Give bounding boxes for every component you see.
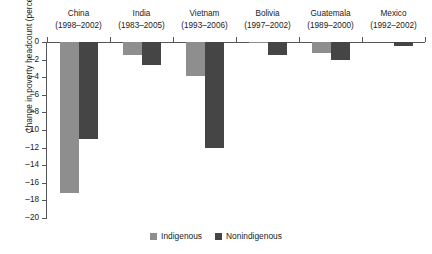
bar-bolivia-nonindigenous (268, 42, 287, 55)
y-axis-tick-label: –6 (3, 91, 39, 99)
bar-china-indigenous (60, 42, 79, 193)
y-axis-tick-mark (42, 130, 47, 131)
legend-label: Indigenous (161, 231, 202, 241)
group-separator-tick (47, 37, 48, 42)
y-axis-tick-label: –18 (3, 196, 39, 204)
chart-legend: IndigenousNonindigenous (0, 231, 432, 241)
plot-area: 0–2–4–6–8–10–12–14–16–18–20 (47, 42, 425, 218)
y-axis-tick-mark (42, 218, 47, 219)
bar-guatemala-indigenous (312, 42, 331, 53)
category-name: Bolivia (236, 8, 299, 20)
category-name: China (47, 8, 110, 20)
category-name: Mexico (362, 8, 425, 20)
category-period: (1997–2002) (236, 20, 299, 32)
bar-vietnam-indigenous (186, 42, 205, 76)
category-header-bolivia: Bolivia(1997–2002) (236, 8, 299, 31)
y-axis-tick-mark (42, 165, 47, 166)
y-axis-tick-label: –14 (3, 161, 39, 169)
category-header-guatemala: Guatemala(1989–2000) (299, 8, 362, 31)
y-axis-tick-label: –4 (3, 73, 39, 81)
legend-label: Nonindigenous (226, 231, 282, 241)
y-axis-tick-label: –16 (3, 179, 39, 187)
category-name: Guatemala (299, 8, 362, 20)
bar-india-indigenous (123, 42, 142, 55)
y-axis-tick-label: 0 (3, 38, 39, 46)
category-header-vietnam: Vietnam(1993–2006) (173, 8, 236, 31)
category-period: (1992–2002) (362, 20, 425, 32)
legend-item-nonindigenous[interactable]: Nonindigenous (215, 231, 282, 241)
y-axis-tick-mark (42, 95, 47, 96)
group-separator-tick (299, 37, 300, 42)
y-axis-tick-mark (42, 42, 47, 43)
category-header-china: China(1998–2002) (47, 8, 110, 31)
category-name: Vietnam (173, 8, 236, 20)
bar-guatemala-nonindigenous (331, 42, 350, 60)
category-period: (1993–2006) (173, 20, 236, 32)
category-header-india: India(1983–2005) (110, 8, 173, 31)
group-separator-tick (425, 37, 426, 42)
zero-baseline (47, 42, 425, 43)
y-axis-tick-label: –8 (3, 108, 39, 116)
y-axis-tick-mark (42, 112, 47, 113)
legend-item-indigenous[interactable]: Indigenous (150, 231, 202, 241)
bar-china-nonindigenous (79, 42, 98, 139)
category-name: India (110, 8, 173, 20)
y-axis-tick-mark (42, 183, 47, 184)
y-axis-tick-mark (42, 148, 47, 149)
category-header-mexico: Mexico(1992–2002) (362, 8, 425, 31)
group-separator-tick (236, 37, 237, 42)
group-separator-tick (110, 37, 111, 42)
bar-bolivia-indigenous (249, 42, 268, 43)
y-axis-tick-mark (42, 200, 47, 201)
category-period: (1983–2005) (110, 20, 173, 32)
category-period: (1989–2000) (299, 20, 362, 32)
group-separator-tick (173, 37, 174, 42)
y-axis-tick-mark (42, 77, 47, 78)
legend-swatch-nonindigenous (215, 233, 222, 240)
y-axis-tick-label: –20 (3, 214, 39, 222)
bar-india-nonindigenous (142, 42, 161, 65)
y-axis-tick-mark (42, 60, 47, 61)
group-separator-tick (362, 37, 363, 42)
chart-container: Change in poverty headcount (percent) Ch… (0, 0, 432, 254)
legend-swatch-indigenous (150, 233, 157, 240)
y-axis-tick-label: –12 (3, 143, 39, 151)
y-axis-tick-label: –10 (3, 126, 39, 134)
category-period: (1998–2002) (47, 20, 110, 32)
bar-mexico-nonindigenous (394, 42, 413, 46)
bar-vietnam-nonindigenous (205, 42, 224, 148)
y-axis-tick-label: –2 (3, 55, 39, 63)
